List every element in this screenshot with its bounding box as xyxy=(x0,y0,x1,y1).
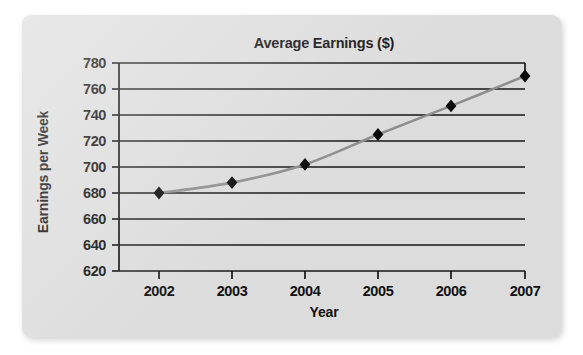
x-axis-title: Year xyxy=(310,304,340,320)
chart-card: Average Earnings ($) Earnings per Week Y… xyxy=(22,15,561,337)
y-tick-label-780: 780 xyxy=(83,55,106,71)
y-axis-title: Earnings per Week xyxy=(35,110,51,233)
x-tick-labels: 2002 2003 2004 2005 2006 2007 xyxy=(144,283,541,299)
x-tick-label-2006: 2006 xyxy=(436,283,467,299)
series-line-earnings xyxy=(159,76,525,193)
data-point-2004 xyxy=(300,158,311,171)
data-point-2005 xyxy=(373,128,384,141)
y-tick-label-760: 760 xyxy=(83,81,106,97)
y-tick-labels: 780 760 740 720 700 680 660 640 620 xyxy=(83,55,106,279)
y-tickmarks xyxy=(112,63,119,271)
data-point-2003 xyxy=(227,176,238,189)
x-tick-label-2002: 2002 xyxy=(144,283,175,299)
gridlines xyxy=(119,63,525,271)
y-tick-label-640: 640 xyxy=(83,237,106,253)
x-tickmarks xyxy=(159,271,525,279)
data-point-2007 xyxy=(520,70,531,83)
y-tick-label-680: 680 xyxy=(83,185,106,201)
y-tick-label-700: 700 xyxy=(83,159,106,175)
y-tick-label-740: 740 xyxy=(83,107,106,123)
data-point-2002 xyxy=(154,187,165,200)
earnings-line-chart: Average Earnings ($) Earnings per Week Y… xyxy=(22,15,561,337)
chart-canvas: Average Earnings ($) Earnings per Week Y… xyxy=(22,15,561,337)
data-point-2006 xyxy=(446,100,457,113)
x-tick-label-2005: 2005 xyxy=(363,283,394,299)
y-tick-label-720: 720 xyxy=(83,133,106,149)
y-tick-label-660: 660 xyxy=(83,211,106,227)
x-tick-label-2007: 2007 xyxy=(510,283,541,299)
chart-title: Average Earnings ($) xyxy=(254,35,395,51)
x-tick-label-2003: 2003 xyxy=(217,283,248,299)
x-tick-label-2004: 2004 xyxy=(290,283,321,299)
y-tick-label-620: 620 xyxy=(83,263,106,279)
